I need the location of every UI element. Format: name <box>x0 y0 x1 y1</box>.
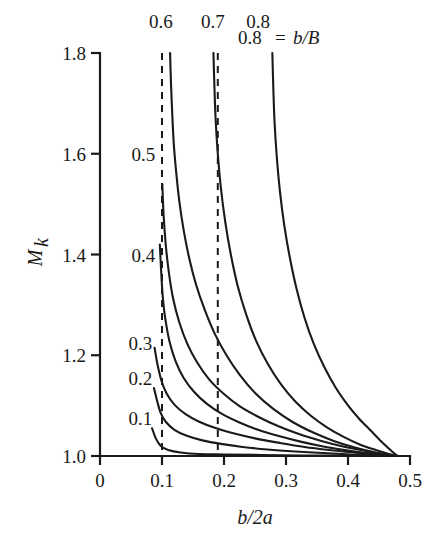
legend-note-equals: = <box>275 27 286 48</box>
curve-0.3 <box>155 348 398 456</box>
legend-note-value: 0.8 <box>238 27 262 48</box>
y-axis-title-base: M <box>24 248 46 267</box>
y-tick-label-1.0: 1.0 <box>62 446 86 467</box>
figure-container: 1.01.21.41.61.8 00.10.20.30.40.5 0.10.20… <box>0 0 448 546</box>
curve-label-0.1: 0.1 <box>128 408 152 429</box>
curve-0.4 <box>160 244 398 456</box>
y-axis-title: M k <box>24 237 52 267</box>
curve-0.5 <box>162 184 397 456</box>
y-axis-tick-labels: 1.01.21.41.61.8 <box>62 43 86 467</box>
x-tick-label-0.1: 0.1 <box>150 470 174 491</box>
asymptote-lines <box>162 53 218 456</box>
curve-label-0.4: 0.4 <box>132 245 156 266</box>
y-tick-label-1.4: 1.4 <box>62 245 86 266</box>
y-axis-title-subscript: k <box>30 237 52 247</box>
curve-0.7 <box>213 53 397 456</box>
legend-note: 0.8 = b/B <box>238 27 320 48</box>
y-axis-ticks <box>91 53 100 456</box>
curve-label-0.3: 0.3 <box>128 333 152 354</box>
x-tick-label-0: 0 <box>95 470 105 491</box>
y-tick-label-1.8: 1.8 <box>62 43 86 64</box>
x-axis-title: b/2a <box>237 506 273 528</box>
curve-0.6 <box>170 53 398 456</box>
x-axis-ticks <box>100 456 410 465</box>
curve-label-0.7: 0.7 <box>201 11 225 32</box>
y-tick-label-1.2: 1.2 <box>62 345 86 366</box>
x-tick-label-0.3: 0.3 <box>274 470 298 491</box>
line-chart: 1.01.21.41.61.8 00.10.20.30.40.5 0.10.20… <box>0 0 448 546</box>
legend-note-param: b/B <box>293 27 320 48</box>
data-curves <box>152 53 398 456</box>
x-tick-label-0.5: 0.5 <box>398 470 422 491</box>
curve-label-0.5: 0.5 <box>132 144 156 165</box>
curve-label-0.6: 0.6 <box>149 11 173 32</box>
y-tick-label-1.6: 1.6 <box>62 144 86 165</box>
x-axis-tick-labels: 00.10.20.30.40.5 <box>95 470 422 491</box>
x-tick-label-0.4: 0.4 <box>336 470 360 491</box>
x-tick-label-0.2: 0.2 <box>212 470 236 491</box>
curve-label-0.2: 0.2 <box>128 368 152 389</box>
